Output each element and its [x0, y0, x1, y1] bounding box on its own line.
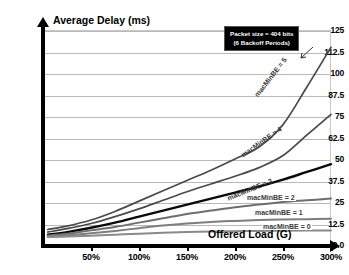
curve-label-macminbe-2: macMinBE = 2	[246, 194, 296, 201]
curve-label-macminbe-0: macMinBE = 0	[262, 223, 312, 230]
annotation-box: Packet size = 404 bits (6 Backoff Period…	[224, 26, 299, 51]
curve-label-macminbe-1: macMinBE = 1	[254, 209, 304, 216]
annotation-line-1: Packet size = 404 bits	[230, 29, 293, 38]
annotation-leader-line	[300, 47, 314, 59]
annotation-line-2: (6 Backoff Periods)	[230, 38, 293, 47]
chart-title: Average Delay (ms)	[53, 14, 150, 26]
